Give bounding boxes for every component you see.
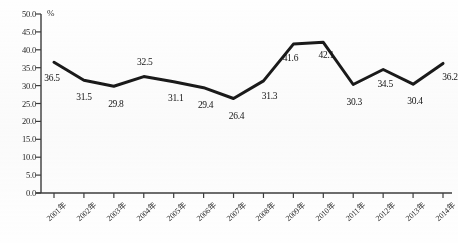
line-chart: 50.045.040.035.030.025.020.015.010.05.00… xyxy=(0,0,458,243)
series-line-primary xyxy=(54,42,443,98)
y-axis-ticks xyxy=(36,14,41,193)
x-axis-ticks xyxy=(54,193,443,198)
plot-area xyxy=(0,0,458,243)
